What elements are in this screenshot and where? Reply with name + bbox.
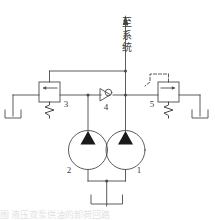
label-to-system: 至系统 [120, 17, 133, 55]
junction-dot-pilot-main [124, 70, 127, 73]
component-label-2: 2 [63, 165, 75, 175]
junction-dot-pump2-line [87, 94, 90, 97]
valve-3-spring [45, 102, 54, 118]
component-label-1: 1 [133, 165, 145, 175]
valve-5-pilot-line-dashed [145, 74, 169, 86]
check-valve-4-triangle [100, 89, 110, 101]
component-label-5: 5 [146, 99, 158, 109]
valve-5-internal-arrowhead [172, 86, 176, 89]
figure-canvas: 至系统 3 4 5 2 1 图 液压双泵供油的卸荷回路 [0, 0, 215, 220]
to-system-char-3: 统 [122, 42, 132, 53]
valve-5-spring [164, 102, 173, 118]
valve-5-body [158, 82, 179, 102]
valve-3-body [39, 82, 60, 102]
to-system-char-2: 系 [122, 30, 132, 41]
valve-3-internal-arrowhead [43, 86, 47, 89]
pump-2-flow-triangle [81, 131, 96, 145]
figure-caption: 图 液压双泵供油的卸荷回路 [0, 210, 215, 220]
junction-dot-suction-manifold [105, 180, 108, 183]
junction-dot-main-line [124, 94, 127, 97]
component-label-3: 3 [60, 99, 72, 109]
to-system-char-1: 至 [122, 17, 132, 28]
component-label-4: 4 [100, 102, 112, 112]
pump-1-flow-triangle [118, 131, 133, 145]
